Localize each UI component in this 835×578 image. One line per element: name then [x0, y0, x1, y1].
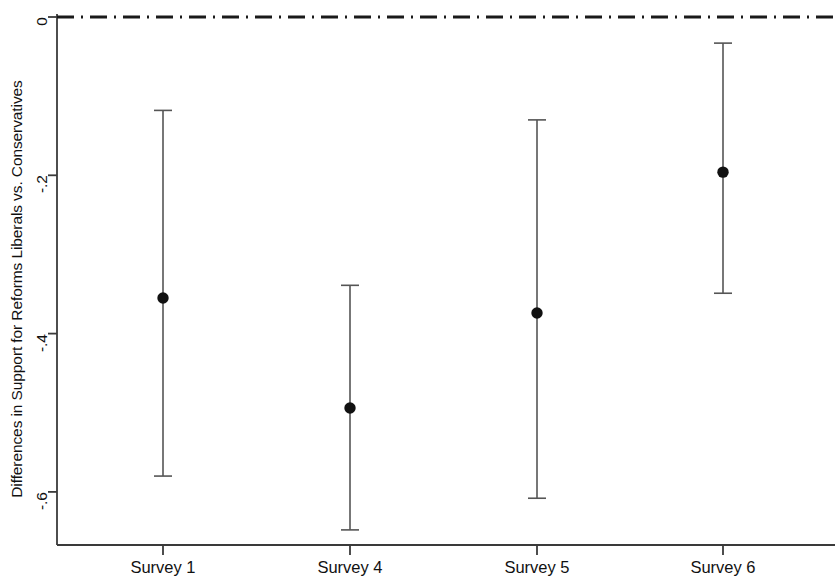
data-point-marker — [157, 292, 168, 303]
y-tick-label: -.2 — [32, 175, 52, 217]
x-axis-ticks — [163, 545, 723, 555]
data-point-marker — [717, 166, 728, 177]
data-point-marker — [531, 307, 542, 318]
y-axis-ticks — [48, 17, 57, 492]
x-tick-label: Survey 4 — [260, 558, 440, 577]
y-tick-label: -.4 — [32, 334, 52, 376]
data-series-group — [154, 43, 732, 530]
chart-plot-area — [0, 0, 835, 578]
x-tick-label: Survey 5 — [447, 558, 627, 577]
y-axis-title: Differences in Support for Reforms Liber… — [0, 0, 34, 578]
y-tick-label: 0 — [32, 17, 52, 59]
x-tick-label: Survey 6 — [633, 558, 813, 577]
figure-container: Differences in Support for Reforms Liber… — [0, 0, 835, 578]
y-tick-label: -.6 — [32, 492, 52, 534]
data-point-marker — [344, 402, 355, 413]
x-tick-label: Survey 1 — [73, 558, 253, 577]
